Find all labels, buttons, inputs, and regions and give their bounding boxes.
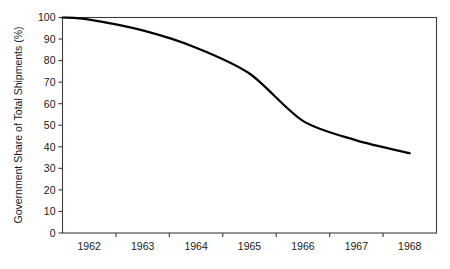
x-axis-tick-label: 1967	[345, 240, 369, 252]
y-axis-tick-label: 50	[44, 119, 56, 131]
chart-background	[0, 0, 450, 269]
y-axis-title: Government Share of Total Shipments (%)	[12, 26, 24, 223]
y-axis-tick-label: 60	[44, 98, 56, 110]
x-axis-tick-label: 1965	[238, 240, 262, 252]
y-axis-tick-label: 80	[44, 54, 56, 66]
y-axis-tick-label: 100	[38, 11, 56, 23]
y-axis-tick-label: 30	[44, 162, 56, 174]
x-axis-tick-label: 1968	[398, 240, 422, 252]
line-chart: Government Share of Total Shipments (%) …	[0, 0, 450, 269]
y-axis-tick-label: 40	[44, 141, 56, 153]
y-axis-tick-label: 90	[44, 33, 56, 45]
y-axis-tick-label: 70	[44, 76, 56, 88]
y-axis-tick-label: 20	[44, 184, 56, 196]
x-axis-tick-label: 1962	[78, 240, 102, 252]
x-axis-tick-label: 1964	[184, 240, 208, 252]
x-axis-tick-label: 1963	[131, 240, 155, 252]
x-axis-tick-label: 1966	[291, 240, 315, 252]
y-axis-tick-label: 10	[44, 205, 56, 217]
y-axis-title-text: Government Share of Total Shipments (%)	[12, 26, 24, 223]
y-axis-tick-label: 0	[50, 227, 56, 239]
chart-figure: Government Share of Total Shipments (%) …	[0, 0, 450, 269]
